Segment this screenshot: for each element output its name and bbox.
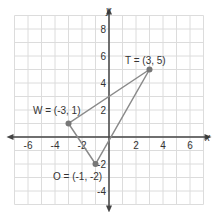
arrow-down-icon — [106, 206, 112, 213]
point-label-o: O = (-1, -2) — [53, 171, 102, 182]
point-label-t: T = (3, 5) — [125, 55, 166, 66]
y-tick-label: -4 — [97, 186, 106, 197]
point-t — [147, 67, 153, 73]
x-tick-label: 2 — [133, 140, 139, 151]
point-w — [66, 121, 72, 127]
y-tick-label: -2 — [97, 159, 106, 170]
x-tick-label: -6 — [24, 140, 33, 151]
x-tick-label: -4 — [51, 140, 60, 151]
x-axis-label: x — [204, 132, 211, 143]
x-tick-label: 6 — [187, 140, 193, 151]
point-label-w: W = (-3, 1) — [33, 105, 81, 116]
y-tick-label: 6 — [100, 51, 106, 62]
y-axis-label: y — [105, 5, 112, 16]
point-o — [93, 161, 99, 167]
arrow-left-icon — [7, 134, 14, 140]
coordinate-plane: -6-4-2246-4-22468 x y T = (3, 5) W = (-3… — [0, 0, 220, 212]
x-tick-label: 4 — [160, 140, 166, 151]
y-tick-label: 4 — [100, 78, 106, 89]
y-tick-label: 2 — [100, 105, 106, 116]
y-tick-label: 8 — [100, 24, 106, 35]
